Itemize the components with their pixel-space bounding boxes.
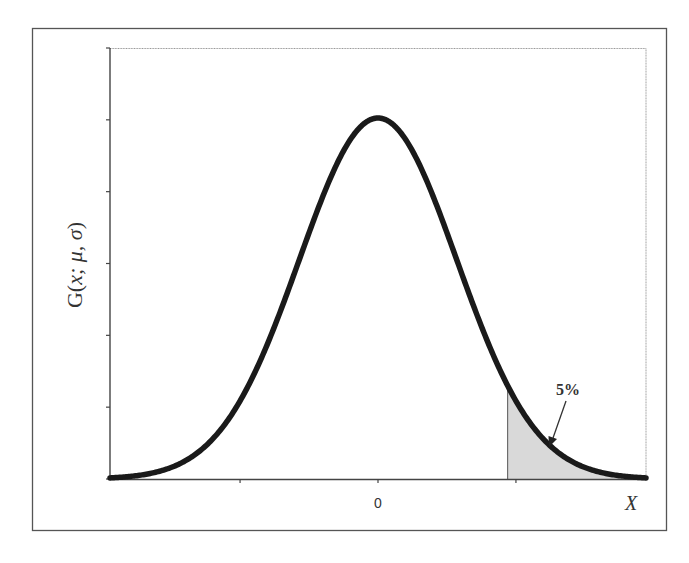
y-label-prefix: G(	[62, 285, 87, 308]
x-axis-label: X	[624, 492, 638, 514]
y-axis-label: G(x; μ, σ)	[62, 222, 87, 308]
y-label-suffix: )	[62, 222, 87, 229]
y-label-args: x; μ, σ	[62, 228, 87, 286]
annotation-5-percent: 5%	[556, 381, 580, 398]
annotation-arrow	[549, 401, 567, 447]
x-tick-labels: 0	[374, 495, 382, 511]
x-tick-label: 0	[374, 495, 382, 511]
gaussian-chart: 5% X G(x; μ, σ) 0	[0, 0, 689, 563]
outer-frame	[33, 29, 667, 531]
plot-area-border	[110, 49, 646, 480]
chart-container: 5% X G(x; μ, σ) 0	[0, 0, 689, 563]
gaussian-curve	[110, 118, 646, 478]
